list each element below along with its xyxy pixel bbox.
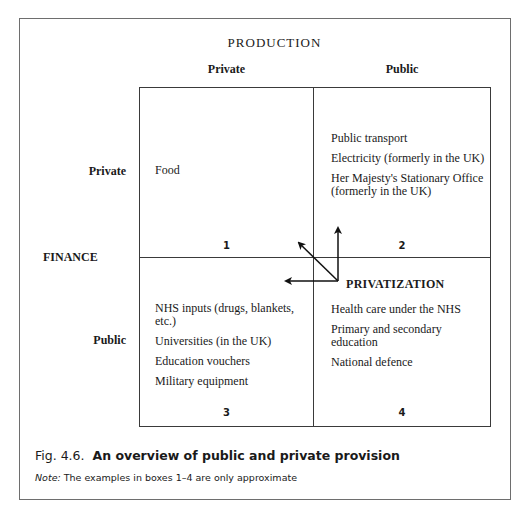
figure-title: An overview of public and private provis… (92, 448, 399, 463)
privatization-arrows-icon (0, 0, 529, 518)
figure-note: Note: The examples in boxes 1–4 are only… (35, 472, 297, 483)
figure-number: Fig. 4.6. (35, 448, 85, 463)
figure-caption: Fig. 4.6. An overview of public and priv… (35, 448, 400, 463)
note-label: Note: (35, 472, 61, 483)
note-text: The examples in boxes 1–4 are only appro… (64, 472, 297, 483)
